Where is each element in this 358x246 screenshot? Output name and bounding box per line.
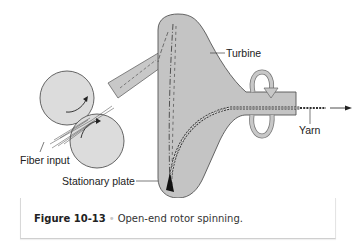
output-arrow	[330, 106, 352, 111]
fiber-input-label: Fiber input	[20, 154, 70, 166]
turbine-body	[120, 14, 296, 198]
caption-text: Open-end rotor spinning.	[118, 213, 243, 224]
lower-roller	[70, 114, 124, 168]
figure-number: Figure 10-13	[34, 213, 106, 224]
yarn-label: Yarn	[299, 124, 320, 136]
stationary-plate-label: Stationary plate	[62, 175, 135, 187]
feed-tube	[108, 52, 160, 98]
caption-separator: •	[109, 213, 115, 224]
figure-caption: Figure 10-13•Open-end rotor spinning.	[34, 213, 243, 224]
turbine-label: Turbine	[226, 47, 261, 59]
